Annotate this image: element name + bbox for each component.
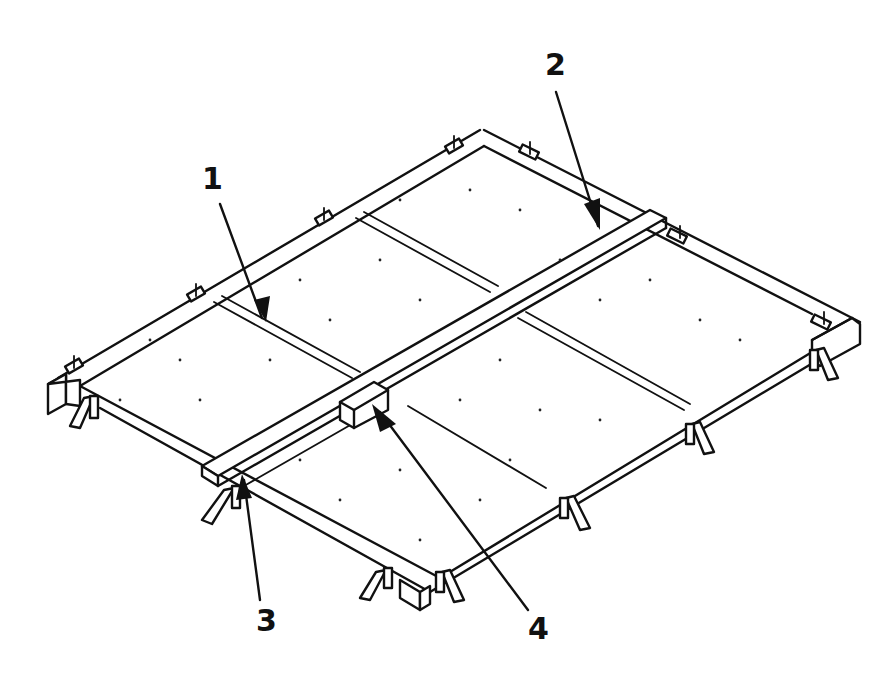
clamp-icon (187, 284, 205, 301)
form-frame-diagram (0, 0, 890, 684)
wedge-icon (560, 496, 590, 530)
wedge-icon (202, 486, 240, 524)
callout-label-2: 2 (545, 50, 566, 80)
clamp-icon (65, 356, 83, 373)
callout-label-1: 1 (202, 164, 223, 194)
callout-label-4: 4 (528, 614, 549, 644)
left-end-block (48, 374, 80, 414)
wedge-icon (360, 568, 392, 600)
clamp-icon (519, 142, 539, 160)
panel-surface (80, 140, 860, 590)
clamp-icon (315, 208, 333, 225)
clamp-icon (445, 136, 463, 153)
callout-label-3: 3 (256, 606, 277, 636)
wedge-icon (686, 422, 714, 454)
